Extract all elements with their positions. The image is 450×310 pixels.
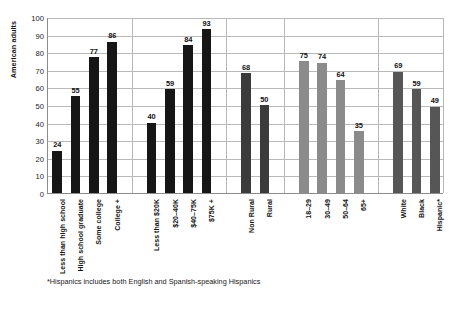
bar: 49 [430, 107, 440, 193]
bar: 24 [52, 151, 62, 193]
x-tick-label: Less than $20K [153, 199, 160, 251]
y-tick-label: 40 [36, 119, 44, 128]
bar-value-label: 40 [148, 112, 156, 121]
y-tick-label: 100 [31, 14, 44, 23]
y-tick-label: 60 [36, 84, 44, 93]
bar: 93 [202, 29, 212, 193]
x-tick-label: Hispanic* [436, 199, 443, 231]
bar: 75 [299, 61, 309, 193]
x-tick-label: Rural [266, 199, 273, 217]
y-tick-label: 30 [36, 137, 44, 146]
bar: 59 [412, 89, 422, 193]
bar-value-label: 59 [166, 79, 174, 88]
bar-chart: American adults 010203040506070809010024… [0, 0, 450, 310]
bar: 84 [183, 45, 193, 193]
y-tick-label: 10 [36, 172, 44, 181]
bar: 59 [165, 89, 175, 193]
x-tick-label: 50–64 [342, 199, 349, 219]
bar-value-label: 50 [260, 95, 268, 104]
bar-value-label: 35 [355, 121, 363, 130]
x-tick-label: $75K + [208, 199, 215, 222]
x-tick-label: $40–75K [190, 199, 197, 228]
bar: 50 [260, 105, 270, 193]
group-separator [378, 18, 379, 193]
bar: 77 [89, 57, 99, 193]
bar-value-label: 68 [242, 63, 250, 72]
group-separator [132, 18, 133, 193]
x-tick-label: 65+ [360, 199, 367, 211]
plot-area: 0102030405060708090100245577864059849368… [47, 18, 443, 194]
bar: 55 [71, 96, 81, 193]
bar-value-label: 93 [203, 19, 211, 28]
bar: 35 [354, 131, 364, 193]
x-tick-label: Black [418, 199, 425, 218]
bar: 40 [147, 123, 157, 193]
bar: 68 [241, 73, 251, 193]
bar: 74 [317, 63, 327, 193]
y-tick-label: 90 [36, 31, 44, 40]
bar-value-label: 49 [431, 96, 439, 105]
x-tick-label: Less than high school [59, 199, 66, 274]
bar: 64 [336, 80, 346, 193]
chart-footnote: *Hispanics includes both English and Spa… [47, 277, 260, 286]
y-axis-title: American adults [9, 0, 18, 105]
y-tick-label: 50 [36, 102, 44, 111]
y-tick-label: 0 [40, 190, 44, 199]
x-tick-label: 18–29 [305, 199, 312, 219]
bar-value-label: 84 [184, 35, 192, 44]
y-tick-label: 70 [36, 66, 44, 75]
x-tick-label: High school graduate [77, 199, 84, 272]
x-tick-label: College + [114, 199, 121, 231]
group-separator [226, 18, 227, 193]
bar: 69 [393, 72, 403, 193]
x-tick-label: White [400, 199, 407, 218]
bar-value-label: 55 [71, 86, 79, 95]
group-separator [284, 18, 285, 193]
plot-right-edge [443, 18, 444, 193]
x-tick-label: 30–49 [324, 199, 331, 219]
bar-value-label: 77 [90, 47, 98, 56]
bar-value-label: 69 [394, 61, 402, 70]
y-tick-label: 20 [36, 154, 44, 163]
bar-value-label: 86 [108, 31, 116, 40]
x-tick-label: Some college [95, 199, 102, 245]
bar-value-label: 59 [412, 79, 420, 88]
x-tick-label: $20–40K [172, 199, 179, 228]
bar-value-label: 64 [336, 70, 344, 79]
bar-value-label: 74 [318, 52, 326, 61]
bar-value-label: 75 [300, 51, 308, 60]
x-tick-label: Non Rural [248, 199, 255, 233]
bar-value-label: 24 [53, 140, 61, 149]
gridline [48, 18, 443, 19]
y-tick-label: 80 [36, 49, 44, 58]
bar: 86 [107, 42, 117, 193]
